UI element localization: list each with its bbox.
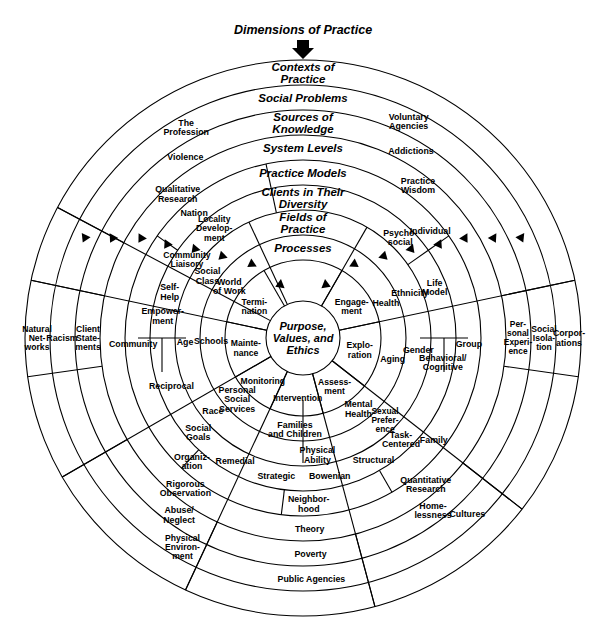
band-arrow-left-0	[82, 233, 91, 242]
cell-racism: Racism	[46, 333, 77, 343]
svg-text:Cognitive: Cognitive	[423, 362, 463, 372]
svg-text:Purpose,: Purpose,	[279, 320, 326, 332]
cell-group: Group	[456, 339, 483, 349]
svg-text:Violence: Violence	[167, 152, 203, 162]
band-label-contexts-of-practice: Contexts ofPractice	[271, 61, 335, 85]
band-arrow-right-6	[349, 258, 358, 267]
cell-voluntary-agencies: VoluntaryAgencies	[389, 112, 429, 131]
svg-text:ation: ation	[181, 461, 202, 471]
cell-mental-health: MentalHealth	[344, 399, 372, 418]
svg-text:Practice: Practice	[281, 223, 326, 235]
cell-individual: Individual	[410, 226, 451, 236]
svg-text:Family: Family	[420, 435, 448, 445]
svg-text:Help: Help	[160, 292, 180, 302]
svg-text:Community: Community	[109, 339, 157, 349]
cell-cultures: Cultures	[450, 509, 486, 519]
svg-text:Practice Models: Practice Models	[259, 167, 347, 179]
down-arrow-icon	[292, 40, 314, 59]
svg-text:Contexts of: Contexts of	[271, 61, 335, 73]
svg-text:Intervention: Intervention	[273, 393, 322, 403]
cell-intervention: Intervention	[273, 393, 322, 403]
band-arrow-left-6	[247, 258, 256, 267]
cell-theory: Theory	[295, 524, 324, 534]
proc-spoke-1	[339, 322, 379, 331]
svg-text:Strategic: Strategic	[257, 471, 295, 481]
band-arrow-right-7	[321, 279, 330, 288]
svg-text:Public Agencies: Public Agencies	[278, 574, 346, 584]
cell-violence: Violence	[167, 152, 203, 162]
svg-text:Research: Research	[406, 484, 446, 494]
cell-physical-ability: PhysicalAbility	[300, 445, 336, 464]
svg-text:Research: Research	[158, 194, 198, 204]
cell-self-help: Self-Help	[160, 282, 180, 301]
cell-rigorous-observation: RigorousObservation	[160, 479, 211, 498]
cell-assessment: Assess-ment	[318, 377, 351, 396]
svg-text:Clients in Their: Clients in Their	[261, 186, 345, 198]
cell-qualitative-research: QualitativeResearch	[155, 184, 200, 203]
svg-text:Reciprocal: Reciprocal	[149, 381, 194, 391]
svg-text:Practice: Practice	[281, 73, 326, 85]
svg-text:Ethics: Ethics	[286, 344, 319, 356]
svg-text:Theory: Theory	[295, 524, 324, 534]
band-arrow-right-3	[433, 239, 442, 248]
outer-spoke-l	[28, 366, 102, 376]
cell-locality-development: LocalityDevelop-ment	[196, 214, 232, 242]
cell-addictions: Addictions	[388, 146, 434, 156]
diagram-title: Dimensions of Practice	[234, 23, 372, 37]
cell-practice-wisdom: PracticeWisdom	[401, 176, 435, 195]
svg-text:Bowenian: Bowenian	[309, 471, 351, 481]
cell-health: Health	[372, 298, 399, 308]
cl-subspoke-0	[408, 250, 428, 264]
band-label-social-problems: Social Problems	[258, 92, 347, 104]
svg-text:Ability: Ability	[304, 455, 331, 465]
band-arrow-left-1	[110, 233, 119, 242]
svg-text:ment: ment	[172, 551, 193, 561]
svg-text:ment: ment	[324, 386, 345, 396]
center-purpose-values-ethics: Purpose,Values, andEthics	[273, 320, 334, 356]
cell-engagement: Engage-ment	[335, 297, 369, 316]
svg-text:nance: nance	[233, 348, 258, 358]
cell-organization: Organiz-ation	[174, 452, 210, 471]
outer-spoke-2	[356, 534, 375, 606]
svg-text:hood: hood	[298, 504, 320, 514]
pm-subspoke-1	[380, 471, 393, 493]
svg-text:nation: nation	[241, 306, 267, 316]
svg-text:Nation: Nation	[180, 208, 207, 218]
outer-spoke-r	[504, 366, 578, 376]
svg-text:Centered: Centered	[382, 439, 420, 449]
svg-text:Diversity: Diversity	[279, 198, 328, 210]
svg-text:Social Problems: Social Problems	[258, 92, 347, 104]
svg-text:tion: tion	[536, 342, 552, 352]
cell-public-agencies: Public Agencies	[278, 574, 346, 584]
band-arrow-right-0	[515, 233, 524, 242]
cell-reciprocal: Reciprocal	[149, 381, 194, 391]
cell-behavioral-cognitive: Behavioral/Cognitive	[419, 353, 467, 372]
svg-text:Structural: Structural	[353, 455, 395, 465]
cell-abuse-neglect: Abuse/Neglect	[163, 505, 195, 524]
band-arrow-right-1	[488, 233, 497, 242]
cell-life-model: LifeModel	[422, 278, 447, 297]
cell-corporations: Corpor-ations	[553, 328, 585, 347]
svg-text:Fields of: Fields of	[279, 211, 327, 223]
svg-text:Cultures: Cultures	[450, 509, 486, 519]
cell-age: Age	[177, 337, 194, 347]
cell-the-profession: TheProfession	[163, 118, 208, 137]
cell-community: Community	[109, 339, 157, 349]
diagram-canvas: Dimensions of Practice Contexts ofPracti…	[0, 0, 608, 637]
cell-neighborhood: Neighbor-hood	[288, 494, 330, 513]
cell-homelessness: Home-lessness	[414, 501, 451, 520]
band-label-system-levels: System Levels	[263, 142, 343, 154]
cell-nation: Nation	[180, 208, 207, 218]
band-label-processes: Processes	[274, 242, 332, 254]
cell-personal-social-services: PersonalSocialServices	[219, 385, 256, 414]
cell-race: Race	[202, 406, 223, 416]
cell-aging: Aging	[380, 354, 405, 364]
svg-text:Processes: Processes	[274, 242, 332, 254]
svg-text:Group: Group	[456, 339, 483, 349]
cell-physical-environment: PhysicalEnviron-ment	[165, 533, 200, 561]
svg-text:ments: ments	[75, 342, 101, 352]
svg-text:Addictions: Addictions	[388, 146, 434, 156]
svg-text:of Work: of Work	[213, 286, 246, 296]
cell-exploration: Explo-ration	[347, 340, 373, 359]
svg-text:Wisdom: Wisdom	[401, 185, 435, 195]
